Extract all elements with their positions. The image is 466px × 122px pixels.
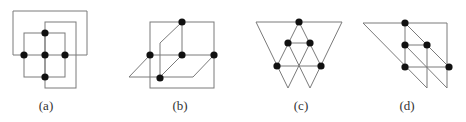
vertex: [41, 51, 48, 58]
vertex: [41, 73, 48, 80]
vertex: [401, 41, 408, 48]
vertex: [156, 74, 163, 81]
vertex: [20, 51, 27, 58]
caption-c: (c): [294, 98, 308, 114]
edge-right: [310, 22, 342, 88]
vertex: [273, 62, 280, 69]
diagram-d: [363, 19, 453, 88]
vertex: [284, 39, 291, 46]
vertex: [146, 51, 153, 58]
vertex: [401, 19, 408, 26]
vertex: [295, 18, 302, 25]
edge-left: [256, 22, 288, 88]
caption-a: (a): [39, 98, 53, 114]
caption-b: (b): [172, 98, 187, 114]
edge-slant: [160, 55, 182, 77]
vertex: [41, 29, 48, 36]
edge-hypotenuse: [363, 23, 427, 88]
vertex: [401, 63, 408, 70]
diagram-c: [256, 18, 342, 88]
vertex: [423, 41, 430, 48]
figure-canvas: [0, 0, 466, 122]
vertex: [306, 39, 313, 46]
vertex: [317, 62, 324, 69]
diagram-b: [129, 18, 218, 88]
vertex: [445, 63, 452, 70]
diagram-a: [13, 11, 87, 88]
vertex: [178, 18, 185, 25]
vertex: [210, 51, 217, 58]
vertex: [61, 51, 68, 58]
vertex: [178, 51, 185, 58]
edge-vertical-slant: [160, 22, 182, 78]
caption-d: (d): [399, 98, 414, 114]
